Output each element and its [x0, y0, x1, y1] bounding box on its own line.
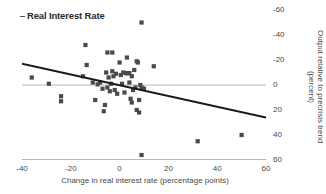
- trend-line: [22, 64, 266, 118]
- scatter-point: [196, 139, 200, 143]
- y-tick-label: -20: [273, 55, 285, 64]
- scatter-point: [108, 89, 112, 93]
- y-tick-label: -60: [273, 5, 285, 14]
- scatter-point: [110, 50, 114, 54]
- scatter-plot-svg: [22, 10, 266, 160]
- scatter-point: [130, 100, 134, 104]
- y-tick-label: 60: [273, 155, 282, 164]
- scatter-point: [85, 63, 89, 67]
- scatter-point: [114, 72, 118, 76]
- scatter-point: [30, 75, 34, 79]
- scatter-point: [139, 153, 143, 157]
- scatter-point: [113, 88, 117, 92]
- scatter-point: [110, 69, 114, 73]
- y-tick-label: 0: [273, 80, 277, 89]
- scatter-point: [59, 99, 63, 103]
- scatter-point: [100, 87, 104, 91]
- y-tick-label: 20: [273, 105, 282, 114]
- scatter-point: [47, 82, 51, 86]
- scatter-point: [137, 98, 141, 102]
- scatter-point: [102, 109, 106, 113]
- y-axis-title-line2: (percent): [306, 12, 316, 162]
- chart-figure: Real Interest Rate -40-200204060 6040200…: [0, 0, 326, 194]
- x-tick-label: -20: [58, 164, 84, 173]
- y-tick-label: -40: [273, 30, 285, 39]
- y-tick-label: 40: [273, 130, 282, 139]
- scatter-point: [115, 92, 119, 96]
- x-tick-label: 60: [253, 164, 279, 173]
- scatter-point: [125, 55, 129, 59]
- scatter-point: [83, 43, 87, 47]
- scatter-point: [130, 74, 134, 78]
- x-tick-label: 40: [204, 164, 230, 173]
- scatter-point: [139, 20, 143, 24]
- scatter-point: [105, 85, 109, 89]
- scatter-point: [137, 110, 141, 114]
- y-axis-title: Output relative to precrisis trend (perc…: [303, 12, 325, 162]
- scatter-point: [152, 64, 156, 68]
- x-tick-label: 0: [107, 164, 133, 173]
- scatter-point: [103, 103, 107, 107]
- x-axis-title: Change in real interest rate (percentage…: [0, 176, 290, 185]
- scatter-point: [104, 70, 108, 74]
- scatter-point: [122, 90, 126, 94]
- plot-area: [22, 10, 266, 160]
- scatter-point: [132, 68, 136, 72]
- scatter-point: [136, 60, 140, 64]
- x-tick-label: -40: [9, 164, 35, 173]
- scatter-point: [105, 50, 109, 54]
- scatter-point: [118, 60, 122, 64]
- x-tick-label: 20: [155, 164, 181, 173]
- scatter-point: [127, 80, 131, 84]
- scatter-point: [93, 98, 97, 102]
- scatter-point: [128, 97, 132, 101]
- y-axis-title-line1: Output relative to precrisis trend: [316, 12, 326, 162]
- scatter-point: [59, 94, 63, 98]
- scatter-point: [91, 80, 95, 84]
- scatter-point: [240, 133, 244, 137]
- scatter-point: [107, 75, 111, 79]
